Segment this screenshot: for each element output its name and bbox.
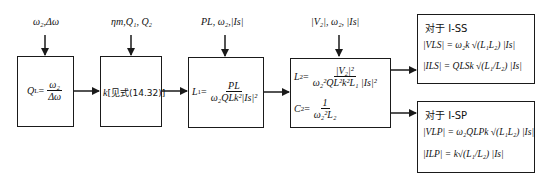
box-ql-calculation: QL= ω₂ Δω	[17, 56, 74, 127]
c2-denominator: ω₂²L₂	[312, 109, 339, 120]
box-i-ss-results: 对于 I-SS |VLS| = ω₂k √(L₁L₂) |Is| |ILS| =…	[417, 14, 535, 84]
ql-numerator: ω₂	[47, 79, 62, 91]
input-label-pl-omega2-is: PL, ω₂,|Is|	[201, 16, 243, 27]
i-ss-ils-equation: |ILS| = QLSk √(L₁/L₂) |Is|	[423, 61, 522, 71]
c2-fraction: 1 ω₂²L₂	[312, 97, 339, 120]
i-ss-vls-equation: |VLS| = ω₂k √(L₁L₂) |Is|	[423, 40, 515, 50]
input-label-eta-q1-q2: ηm,Q₁, Q₂	[111, 16, 152, 27]
l2-denominator: ω₂²QL²k²L₁ |Is|²	[311, 77, 379, 88]
i-ss-title: 对于 I-SS	[425, 20, 467, 35]
l1-equation: L1= PL ω₂QLk²|Is|²	[192, 80, 259, 103]
l1-fraction: PL ω₂QLk²|Is|²	[209, 80, 259, 103]
c2-equation: C2= 1 ω₂²L₂	[294, 97, 338, 120]
c2-numerator: 1	[321, 97, 330, 109]
l1-numerator: PL	[226, 80, 242, 92]
i-sp-ilp-equation: |ILP| = k√(L₁/L₂) |Is|	[423, 149, 504, 159]
ql-symbol: Q	[27, 85, 34, 96]
box-l2-c2-calculation: L2= |V₂|² ω₂²QL²k²L₁ |Is|² C2= 1 ω₂²L₂	[290, 58, 391, 128]
i-sp-title: 对于 I-SP	[425, 107, 467, 122]
k-reference-text: k[见式(14.32)]	[103, 86, 165, 99]
l1-denominator: ω₂QLk²|Is|²	[209, 92, 259, 103]
l2-equation: L2= |V₂|² ω₂²QL²k²L₁ |Is|²	[294, 65, 379, 88]
box-l1-calculation: L1= PL ω₂QLk²|Is|²	[188, 57, 264, 128]
box-i-sp-results: 对于 I-SP |VLP| = ω₂QLPk √(L₁L₂) |Is| |ILP…	[417, 101, 535, 173]
i-sp-vlp-equation: |VLP| = ω₂QLPk √(L₁L₂) |Is|	[423, 127, 534, 137]
input-label-v2-omega2-is: |V₂|, ω₂, |Is|	[311, 16, 359, 27]
c2-symbol: C	[294, 103, 301, 114]
ql-fraction: ω₂ Δω	[46, 79, 63, 102]
input-label-omega2-deltaomega: ω₂,Δω	[33, 16, 59, 27]
l2-numerator: |V₂|²	[334, 65, 356, 77]
ql-equation: QL= ω₂ Δω	[27, 79, 63, 102]
box-k-reference: k[见式(14.32)]	[100, 56, 162, 127]
equation-reference: [见式(14.32)]	[107, 86, 165, 99]
ql-denominator: Δω	[46, 91, 63, 102]
l2-fraction: |V₂|² ω₂²QL²k²L₁ |Is|²	[311, 65, 379, 88]
